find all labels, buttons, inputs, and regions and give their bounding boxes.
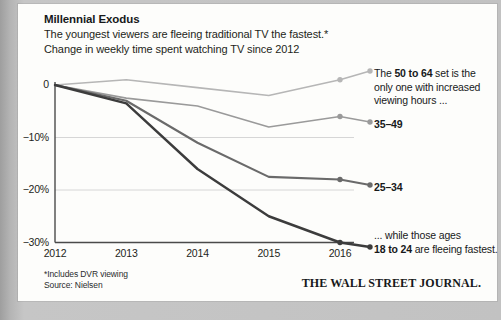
x-tick-label: 2015	[244, 247, 294, 259]
annotation-25-34: 25–34	[374, 181, 402, 195]
x-tick-label: 2013	[101, 247, 151, 259]
publisher-logo: THE WALL STREET JOURNAL.	[302, 276, 481, 291]
screenshot-root: Millennial Exodus The youngest viewers a…	[0, 0, 501, 320]
x-tick-label: 2014	[173, 247, 223, 259]
x-tick-label: 2016	[315, 247, 365, 259]
annotation-18-24: ... while those ages 18 to 24 are fleein…	[374, 229, 500, 256]
x-tick-label: 2012	[30, 247, 80, 259]
gridlines	[55, 138, 354, 243]
annotation-50-64: The 50 to 64 set is the only one with in…	[374, 67, 496, 108]
series-endpoint-dots	[337, 68, 372, 249]
series-lines	[55, 80, 340, 243]
y-tick-label: 0	[5, 78, 49, 90]
y-tick-label: −20%	[5, 183, 49, 195]
annotation-50-64-line3: viewing hours ...	[374, 94, 447, 106]
annotation-50-64-line2: only one with increased	[374, 81, 480, 93]
annotation-50-64-bold: 50 to 64	[394, 67, 432, 79]
annotation-35-49: 35–49	[374, 118, 402, 132]
annotation-18-24-post: are fleeing fastest.	[412, 243, 498, 255]
footnote-dvr: *Includes DVR viewing	[44, 269, 128, 279]
axis-lines	[55, 82, 354, 243]
annotation-leader-lines	[340, 71, 370, 247]
annotation-18-24-line1: ... while those ages	[374, 229, 461, 241]
annotation-18-24-bold: 18 to 24	[374, 243, 412, 255]
annotation-50-64-post: set is the	[432, 67, 475, 79]
footnote-source: Source: Nielsen	[44, 280, 103, 290]
chart-card: Millennial Exodus The youngest viewers a…	[18, 4, 497, 301]
y-tick-label: −10%	[5, 131, 49, 143]
annotation-50-64-pre: The	[374, 67, 394, 79]
chart-plot-area: 0−10%−20%−30% 20122013201420152016	[18, 4, 497, 301]
